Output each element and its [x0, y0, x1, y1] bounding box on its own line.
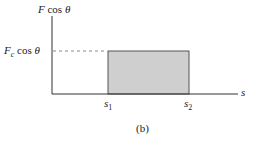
diagram-canvas — [0, 0, 257, 145]
work-area-rectangle — [108, 51, 189, 94]
y-axis-label: F cos θ — [38, 4, 70, 15]
tick-s1-sub: 1 — [108, 103, 112, 112]
y-axis-label-cos: cos — [45, 3, 65, 15]
level-label: Fc cos θ — [4, 45, 40, 59]
y-axis-label-var: F — [38, 3, 45, 15]
figure-caption: (b) — [136, 123, 149, 134]
level-label-cos: cos — [14, 44, 34, 56]
level-label-var: F — [4, 44, 11, 56]
x-axis-label: s — [241, 87, 245, 98]
tick-s2-sub: 2 — [188, 103, 192, 112]
tick-s2: s2 — [184, 98, 192, 112]
y-axis-label-theta: θ — [65, 3, 70, 15]
tick-s1: s1 — [104, 98, 112, 112]
level-label-theta: θ — [34, 44, 39, 56]
